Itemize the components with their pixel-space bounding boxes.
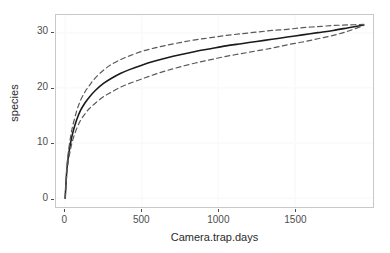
x-tick-mark <box>141 209 142 212</box>
plot-panel <box>55 14 374 208</box>
y-tick-label: 10 <box>37 137 48 147</box>
x-tick-mark <box>64 209 65 212</box>
series-line <box>65 24 364 198</box>
plot-svg <box>56 15 373 207</box>
gridlines <box>56 15 373 207</box>
series-line <box>65 25 364 198</box>
x-axis-title: Camera.trap.days <box>55 231 374 243</box>
y-tick-label: 0 <box>42 193 48 203</box>
x-tick-label: 500 <box>111 215 171 225</box>
y-tick-mark <box>51 32 54 33</box>
y-tick-mark <box>51 88 54 89</box>
y-axis-title: species <box>8 63 20 143</box>
x-tick-mark <box>295 209 296 212</box>
species-accumulation-chart: 0102030 050010001500 Camera.trap.days sp… <box>0 0 390 253</box>
y-tick-mark <box>51 199 54 200</box>
x-tick-label: 1000 <box>188 215 248 225</box>
y-tick-mark <box>51 143 54 144</box>
y-tick-label: 20 <box>37 82 48 92</box>
data-curves <box>65 24 364 198</box>
x-tick-mark <box>218 209 219 212</box>
x-tick-label: 1500 <box>265 215 325 225</box>
y-tick-label: 30 <box>37 26 48 36</box>
x-tick-label: 0 <box>34 215 94 225</box>
series-line <box>65 25 364 198</box>
